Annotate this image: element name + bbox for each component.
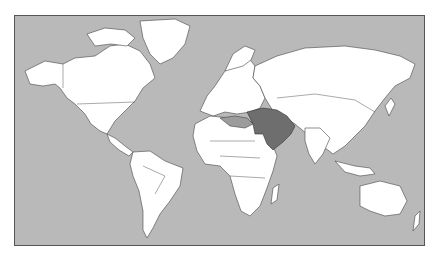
map-svg <box>15 16 424 245</box>
new-zealand <box>413 211 420 231</box>
japan <box>385 98 395 116</box>
arctic-islands <box>87 28 135 46</box>
north-america <box>25 44 155 134</box>
australia <box>360 181 407 216</box>
madagascar <box>271 184 279 204</box>
greenland <box>140 19 190 64</box>
central-america <box>107 134 133 156</box>
south-america <box>130 151 183 238</box>
world-map <box>14 15 425 246</box>
southeast-asia-islands <box>335 161 375 176</box>
